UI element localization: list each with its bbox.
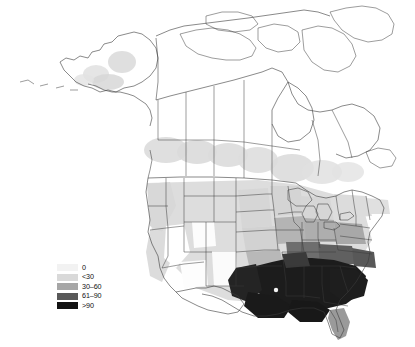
- legend-swatch-2: [57, 283, 78, 290]
- shade-alaska-southwest: [74, 74, 94, 86]
- legend-swatch-1: [57, 274, 78, 281]
- legend-label-4: >90: [82, 302, 94, 310]
- shade-alaska-interior: [108, 51, 136, 73]
- map-legend: 0 <30 30–60 61–90 >90: [57, 263, 135, 311]
- legend-label-1: <30: [82, 273, 94, 281]
- shade-indiana-ohio: [304, 218, 336, 242]
- map-figure: Choropleth map of North America: [0, 0, 415, 347]
- legend-label-2: 30–60: [82, 283, 102, 291]
- legend-item-4: >90: [57, 301, 135, 310]
- shade-minnesota-wisconsin: [270, 186, 304, 216]
- shade-utah-zero: [192, 222, 216, 248]
- legend-item-3: 61–90: [57, 292, 135, 301]
- shade-highlight-dot: [274, 288, 278, 292]
- legend-label-3: 61–90: [82, 292, 102, 300]
- legend-swatch-4: [57, 302, 78, 309]
- legend-item-2: 30–60: [57, 282, 135, 291]
- legend-item-1: <30: [57, 273, 135, 282]
- shade-new-england: [366, 198, 390, 214]
- shade-arkansas-north: [282, 252, 310, 268]
- legend-label-0: 0: [82, 264, 86, 272]
- shade-alaska-south: [92, 74, 124, 90]
- shade-quebec-south: [332, 162, 364, 182]
- legend-swatch-0: [57, 264, 78, 271]
- legend-swatch-3: [57, 293, 78, 300]
- legend-item-0: 0: [57, 263, 135, 272]
